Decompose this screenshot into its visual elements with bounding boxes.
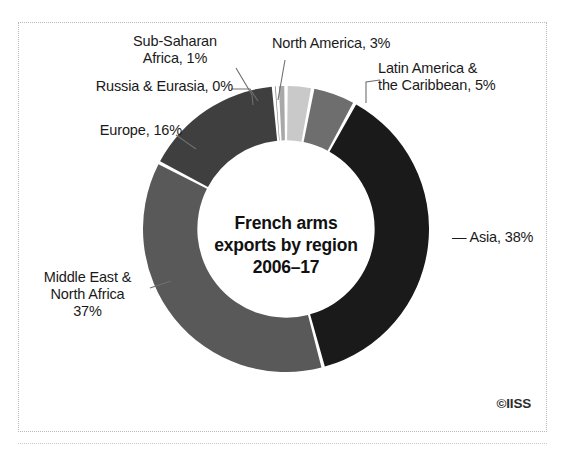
slice-label-latin-america-line-2: the Caribbean, 5% bbox=[378, 77, 554, 94]
slice-label-latin-america: Latin America & the Caribbean, 5% bbox=[378, 60, 554, 94]
slice-label-sub-saharan-africa-line-1: Sub-Saharan bbox=[100, 33, 250, 50]
slice-label-europe-line-1: Europe, 16% bbox=[52, 122, 182, 139]
center-title-line-1: French arms bbox=[143, 212, 429, 234]
chart-center-title: French arms exports by region 2006–17 bbox=[143, 212, 429, 278]
center-title-line-3: 2006–17 bbox=[143, 256, 429, 278]
slice-label-north-america: North America, 3% bbox=[272, 35, 442, 52]
slice-label-middle-east-line-2: North Africa bbox=[20, 286, 155, 303]
slice-label-sub-saharan-africa-line-2: Africa, 1% bbox=[100, 50, 250, 67]
slice-label-latin-america-line-1: Latin America & bbox=[378, 60, 554, 77]
credit-iiss: ©IISS bbox=[455, 396, 531, 411]
slice-label-middle-east: Middle East & North Africa 37% bbox=[20, 269, 155, 320]
slice-label-europe: Europe, 16% bbox=[52, 122, 182, 139]
slice-label-middle-east-line-3: 37% bbox=[20, 303, 155, 320]
slice-label-asia-line-1: — Asia, 38% bbox=[452, 229, 562, 246]
center-title-line-2: exports by region bbox=[143, 234, 429, 256]
donut-slice bbox=[279, 86, 285, 140]
slice-label-asia: — Asia, 38% bbox=[452, 229, 562, 246]
slice-label-middle-east-line-1: Middle East & bbox=[20, 269, 155, 286]
slice-label-russia-eurasia: Russia & Eurasia, 0% bbox=[48, 78, 233, 95]
slice-label-sub-saharan-africa: Sub-Saharan Africa, 1% bbox=[100, 33, 250, 67]
frame-underline-rule bbox=[18, 443, 547, 444]
slice-label-russia-eurasia-line-1: Russia & Eurasia, 0% bbox=[48, 78, 233, 95]
slice-label-north-america-line-1: North America, 3% bbox=[272, 35, 442, 52]
